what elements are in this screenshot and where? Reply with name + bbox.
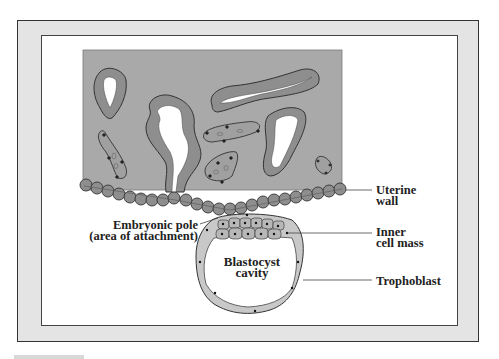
label-blastocyst-cavity: Blastocyst cavity [212, 256, 292, 278]
label-trophoblast-line1: Trophoblast [376, 276, 441, 287]
label-embryonic-pole-line2: (area of attachment) [52, 231, 198, 242]
figure-caption-cutoff [14, 355, 84, 359]
label-trophoblast: Trophoblast [376, 276, 441, 287]
label-embryonic-pole: Embryonic pole (area of attachment) [52, 220, 198, 242]
label-inner-cell-mass-line2: cell mass [376, 238, 424, 249]
implantation-diagram [0, 0, 499, 359]
label-uterine-wall: Uterine wall [376, 185, 416, 207]
label-uterine-wall-line2: wall [376, 196, 416, 207]
label-inner-cell-mass: Inner cell mass [376, 227, 424, 249]
